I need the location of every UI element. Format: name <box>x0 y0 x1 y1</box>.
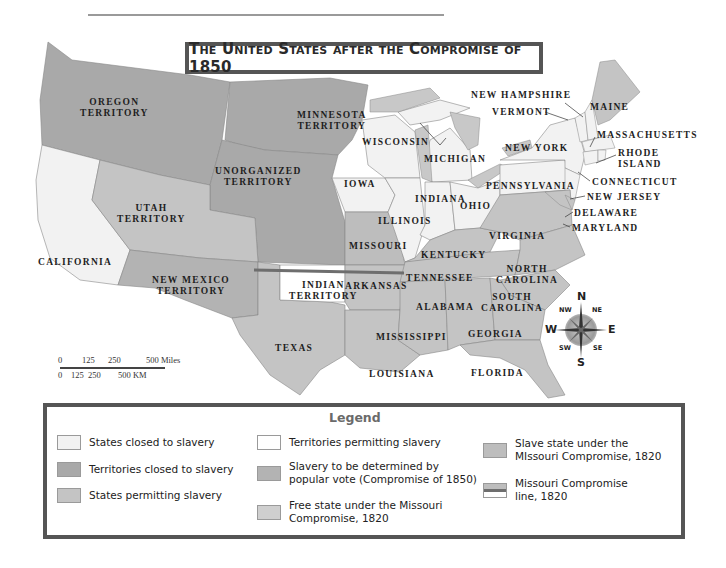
scale-km-0: 0 <box>58 370 62 380</box>
compass-n: N <box>577 290 586 303</box>
leader-lines <box>0 0 726 400</box>
scale-km-125: 125 <box>71 370 84 380</box>
legend-label-line: Free state under the Missouri <box>289 499 442 511</box>
compass-s: S <box>577 356 585 369</box>
legend-label-line: Slavery to be determined by <box>289 460 439 472</box>
legend-label-line: Slave state under the <box>515 437 628 449</box>
compass-nw: NW <box>559 306 572 314</box>
legend: Legend States closed to slavery Territor… <box>43 403 685 539</box>
swatch-free-state-mc <box>257 505 281 520</box>
compass-e: E <box>608 323 616 336</box>
legend-label: Slave state under theMIssouri Compromise… <box>515 437 661 463</box>
legend-item-states-closed: States closed to slavery <box>57 435 215 450</box>
legend-label-line: Missouri Compromise <box>515 477 628 489</box>
legend-item-free-state-mc: Free state under the MissouriCompromise,… <box>257 499 442 525</box>
legend-title: Legend <box>329 410 381 425</box>
legend-label: Territories permitting slavery <box>289 436 441 449</box>
scale-km-250: 250 <box>88 370 101 380</box>
scale-bar: 0 125 250 500 Miles 0 125 250 500 KM <box>58 355 198 381</box>
scale-line <box>60 367 165 369</box>
legend-item-territories-closed: Territories closed to slavery <box>57 462 233 477</box>
swatch-territories-closed <box>57 462 81 477</box>
legend-item-slave-state-mc: Slave state under theMIssouri Compromise… <box>483 437 661 463</box>
scale-mile-125: 125 <box>82 355 95 365</box>
compass-sw: SW <box>559 344 571 352</box>
scale-mile-500: 500 Miles <box>146 355 180 365</box>
compass-se: SE <box>593 344 602 352</box>
scale-mile-250: 250 <box>108 355 121 365</box>
compass-ne: NE <box>592 306 602 314</box>
swatch-slave-state-mc <box>483 443 507 458</box>
legend-item-territories-permitting: Territories permitting slavery <box>257 435 441 450</box>
scale-mile-0: 0 <box>58 355 62 365</box>
swatch-compromise-line <box>483 483 507 498</box>
legend-label: States closed to slavery <box>89 436 215 449</box>
legend-item-popular-vote: Slavery to be determined bypopular vote … <box>257 460 477 486</box>
legend-label-line: popular vote (Compromise of 1850) <box>289 473 477 485</box>
swatch-states-closed <box>57 435 81 450</box>
swatch-territories-permitting <box>257 435 281 450</box>
legend-item-states-permitting: States permitting slavery <box>57 488 222 503</box>
compass-w: W <box>545 323 557 336</box>
legend-label-line: line, 1820 <box>515 490 567 502</box>
legend-label-line: MIssouri Compromise, 1820 <box>515 450 661 462</box>
legend-label: Missouri Compromiseline, 1820 <box>515 477 628 503</box>
swatch-states-permitting <box>57 488 81 503</box>
legend-label: Free state under the MissouriCompromise,… <box>289 499 442 525</box>
swatch-popular-vote <box>257 466 281 481</box>
legend-label: States permitting slavery <box>89 489 222 502</box>
legend-label-line: Compromise, 1820 <box>289 512 389 524</box>
compass-rose: N S W E NW NE SW SE <box>545 292 617 368</box>
legend-item-compromise-line: Missouri Compromiseline, 1820 <box>483 477 628 503</box>
legend-label: Slavery to be determined bypopular vote … <box>289 460 477 486</box>
scale-km-500: 500 KM <box>118 370 147 380</box>
legend-label: Territories closed to slavery <box>89 463 233 476</box>
